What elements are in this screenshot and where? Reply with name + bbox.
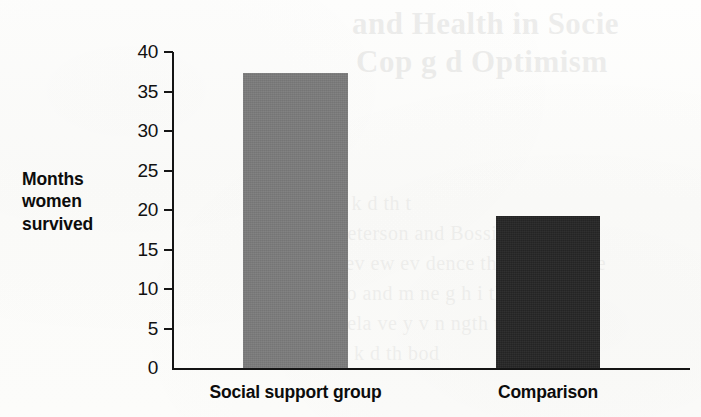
y-tick-label: 35 bbox=[114, 81, 158, 103]
y-tick-label: 10 bbox=[114, 278, 158, 300]
y-tick-label: 30 bbox=[114, 120, 158, 142]
y-axis-line bbox=[172, 52, 174, 368]
y-tick-label: 40 bbox=[114, 41, 158, 63]
y-tick-label: 0 bbox=[114, 357, 158, 379]
y-tick-label: 25 bbox=[114, 160, 158, 182]
bar-chart: Months women survived 0510152025303540 S… bbox=[0, 0, 701, 417]
figure-canvas: and Health in Socie Cop g d Optimism t k… bbox=[0, 0, 701, 417]
y-tick-label: 15 bbox=[114, 239, 158, 261]
bar-texture bbox=[243, 73, 348, 368]
x-category-label-2: Comparison bbox=[498, 382, 598, 403]
y-tick-label: 20 bbox=[114, 199, 158, 221]
bar-texture bbox=[496, 216, 600, 368]
bar-2 bbox=[496, 216, 600, 368]
bar-1 bbox=[243, 73, 348, 368]
x-axis-line bbox=[172, 368, 690, 370]
x-category-label-1: Social support group bbox=[210, 382, 382, 403]
y-tick-label: 5 bbox=[114, 318, 158, 340]
